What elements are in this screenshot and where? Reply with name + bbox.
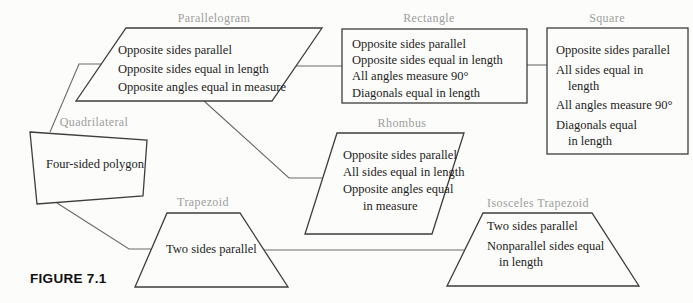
text-line: Opposite angles equal in measure <box>118 78 286 97</box>
text-line: All sides equal in <box>556 63 672 79</box>
text-line: Opposite sides parallel <box>352 36 503 52</box>
rectangle-label: Rectangle <box>403 12 455 25</box>
square-text: Opposite sides parallel All sides equal … <box>556 43 672 150</box>
text-line: Diagonals equal <box>556 118 672 134</box>
text-line: in measure <box>343 198 465 215</box>
text-line: Nonparallel sides equal <box>487 238 604 254</box>
text-line: Opposite sides parallel <box>343 147 465 164</box>
text-line: Opposite sides parallel <box>118 41 286 60</box>
text-line: All sides equal in length <box>343 164 465 181</box>
text-line: Opposite sides equal in length <box>118 60 286 79</box>
quadrilateral-label: Quadrilateral <box>60 116 129 129</box>
text-line: in length <box>487 254 604 270</box>
isosceles-trapezoid-text: Two sides parallel Nonparallel sides equ… <box>487 218 604 270</box>
text-line: Opposite sides equal in length <box>352 52 503 68</box>
parallelogram-label: Parallelogram <box>178 12 251 25</box>
text-line: length <box>556 79 672 95</box>
isosceles-trapezoid-label: Isosceles Trapezoid <box>487 197 589 210</box>
trapezoid-text: Two sides parallel <box>166 242 257 257</box>
text-line: Opposite angles equal <box>343 181 465 198</box>
rhombus-text: Opposite sides parallel All sides equal … <box>343 147 465 215</box>
text-line: Opposite sides parallel <box>556 43 672 59</box>
text-line: Diagonals equal in length <box>352 85 503 101</box>
text-line: Four-sided polygon <box>46 157 144 172</box>
quadrilateral-family-diagram: Parallelogram Rectangle Square Quadrilat… <box>0 0 693 303</box>
text-line: Two sides parallel <box>487 218 604 234</box>
quadrilateral-text: Four-sided polygon <box>46 157 144 172</box>
trapezoid-label: Trapezoid <box>177 196 229 209</box>
edge-quadrilateral-trapezoid <box>57 203 152 249</box>
text-line: All angles measure 90° <box>556 98 672 114</box>
text-line: in length <box>556 134 672 150</box>
rhombus-label: Rhombus <box>378 117 427 130</box>
edge-parallelogram-rhombus <box>204 101 323 178</box>
square-label: Square <box>589 12 625 25</box>
text-line: Two sides parallel <box>166 242 257 257</box>
rectangle-text: Opposite sides parallel Opposite sides e… <box>352 36 503 101</box>
text-line: All angles measure 90° <box>352 68 503 84</box>
parallelogram-text: Opposite sides parallel Opposite sides e… <box>118 41 286 97</box>
figure-caption: FIGURE 7.1 <box>30 271 107 286</box>
